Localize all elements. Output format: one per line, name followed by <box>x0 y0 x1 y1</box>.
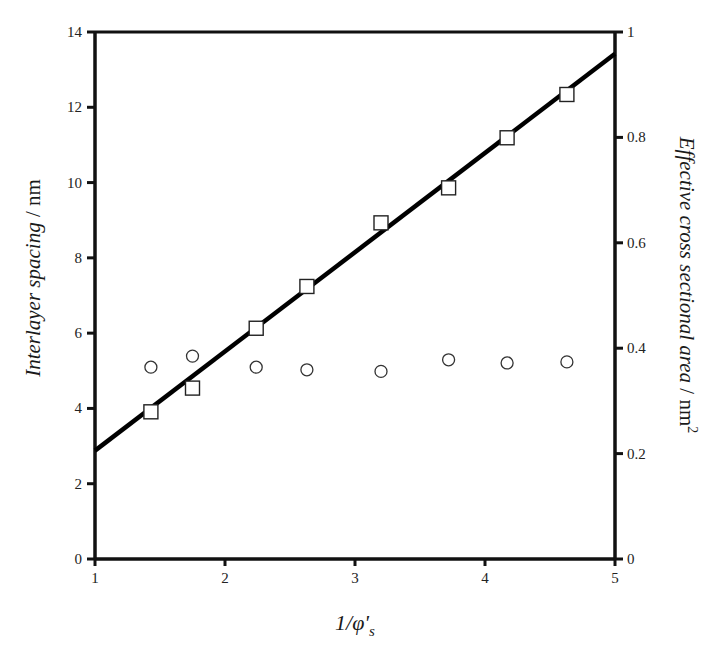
y-tick-left-label: 2 <box>75 476 83 492</box>
square-marker <box>186 381 200 395</box>
fit-line <box>95 54 615 451</box>
square-marker <box>442 181 456 195</box>
linear-fit-line <box>95 54 615 451</box>
y-tick-left-label: 4 <box>75 400 83 416</box>
y-tick-right-label: 1 <box>627 24 635 40</box>
axes: 123450246810121400.20.40.60.81 <box>67 24 646 586</box>
chart-canvas: 123450246810121400.20.40.60.81 <box>0 0 716 664</box>
y-axis-left-label: Interlayer spacing / nm <box>21 179 46 377</box>
x-axis-label: 1/φ's <box>335 610 375 639</box>
x-tick-label: 5 <box>611 570 619 586</box>
x-axis-label-sub: s <box>369 623 375 639</box>
square-marker <box>374 216 388 230</box>
y-tick-left-label: 14 <box>67 24 83 40</box>
y-axis-right-label-sup: 2 <box>685 426 700 433</box>
circle-marker <box>145 361 157 373</box>
y-tick-right-label: 0.8 <box>627 129 646 145</box>
y-axis-right-label-unit: / nm <box>675 383 699 426</box>
square-marker <box>560 87 574 101</box>
circle-marker <box>301 364 313 376</box>
circle-marker <box>250 361 262 373</box>
y-axis-left-label-text: Interlayer spacing <box>21 222 45 377</box>
square-marker <box>249 321 263 335</box>
y-tick-right-label: 0.2 <box>627 446 646 462</box>
y-axis-right-label: Effective cross sectional area / nm2 <box>674 137 700 433</box>
x-axis-label-text: 1/φ' <box>335 610 369 635</box>
y-tick-left-label: 0 <box>75 551 83 567</box>
square-marker <box>144 405 158 419</box>
y-tick-left-label: 8 <box>75 250 83 266</box>
y-tick-left-label: 10 <box>67 175 82 191</box>
x-tick-label: 1 <box>91 570 99 586</box>
y-axis-right-label-text: Effective cross sectional area <box>675 137 699 383</box>
y-axis-left-label-unit: / nm <box>21 179 45 222</box>
y-tick-right-label: 0.4 <box>627 340 646 356</box>
y-tick-right-label: 0 <box>627 551 635 567</box>
y-tick-left-label: 6 <box>75 325 83 341</box>
circle-marker <box>443 354 455 366</box>
y-tick-right-label: 0.6 <box>627 235 646 251</box>
x-tick-label: 3 <box>351 570 359 586</box>
circle-marker <box>187 350 199 362</box>
circle-marker <box>561 356 573 368</box>
data-markers <box>144 87 574 418</box>
x-tick-label: 2 <box>221 570 229 586</box>
circle-marker <box>375 365 387 377</box>
x-tick-label: 4 <box>481 570 489 586</box>
square-marker <box>500 131 514 145</box>
circle-marker <box>501 357 513 369</box>
y-tick-left-label: 12 <box>67 99 82 115</box>
square-marker <box>300 279 314 293</box>
